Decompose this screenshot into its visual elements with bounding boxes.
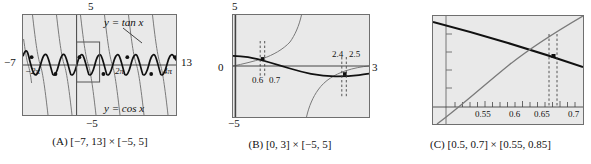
panel-c-caption: (C) [0.5, 0.7] × [0.55, 0.85] [390, 138, 591, 150]
panel-c-tick-0-6: 0.6 [509, 110, 520, 119]
panel-a-tick-neg2pi: −2π [25, 66, 41, 76]
panel-c-y-ticks [446, 34, 452, 88]
panel-c-tick-0-7: 0.7 [568, 110, 579, 119]
intersection-marker-c [552, 54, 556, 58]
panel-b: 5 0 3 −5 [190, 0, 390, 164]
cos-curve-label: y = cos x [104, 103, 144, 114]
panel-b-annot-0-6: 0.6 [252, 76, 263, 85]
panel-c-tick-0-55: 0.55 [475, 110, 491, 119]
panel-c-plot [432, 15, 584, 125]
panel-b-annot-2-4: 2.4 [332, 50, 343, 59]
tan-label-leader [120, 27, 150, 45]
panel-a-caption: (A) [−7, 13] × [−5, 5] [0, 135, 200, 147]
panel-b-svg [233, 15, 369, 117]
panel-b-caption: (B) [0, 3] × [−5, 5] [190, 138, 390, 150]
panel-b-bottom-axis-label: −5 [228, 118, 240, 129]
panel-b-plot [232, 14, 370, 118]
panel-a-tick-4pi: 4π [163, 66, 173, 76]
panel-a-top-axis-label: 5 [88, 1, 94, 12]
panel-b-right-axis-label: 3 [372, 62, 378, 73]
panel-b-left-axis-label: 0 [218, 62, 224, 73]
panel-a-tick-2pi: 2π [115, 66, 125, 76]
panel-c: 0.55 0.6 0.65 0.7 (C) [0.5, 0.7] × [0.55… [390, 0, 591, 164]
panel-b-annot-2-5: 2.5 [349, 50, 360, 59]
panel-a-left-axis-label: −7 [4, 57, 16, 68]
panel-b-top-axis-label: 5 [232, 1, 238, 12]
panel-a-bottom-axis-label: −5 [86, 118, 98, 129]
figure-three-panel-zoom: 5 −7 13 −5 [0, 0, 591, 164]
panel-a: 5 −7 13 −5 [0, 0, 200, 164]
panel-a-plot: −2π 2π 4π [22, 14, 177, 116]
guide-lines-c [549, 34, 557, 107]
tan-curve-c [437, 16, 583, 124]
panel-b-annot-0-7: 0.7 [269, 76, 280, 85]
panel-c-svg [433, 16, 583, 124]
panel-c-tick-0-65: 0.65 [534, 110, 550, 119]
panel-a-svg: −2π 2π 4π [23, 15, 176, 115]
